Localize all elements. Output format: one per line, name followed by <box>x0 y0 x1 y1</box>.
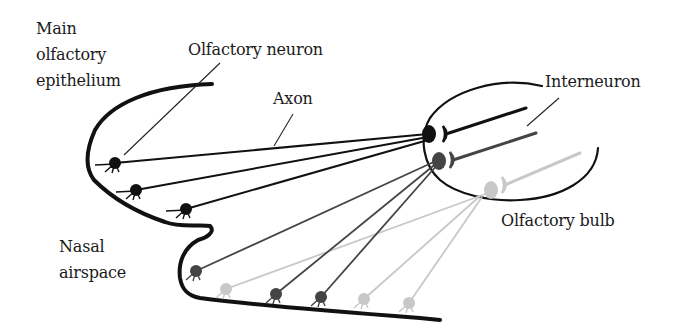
axon-group <box>115 134 488 303</box>
epithelium-outline <box>88 84 440 320</box>
olfactory-neuron <box>354 293 370 309</box>
olfactory-neuron <box>166 203 192 219</box>
label-axon: Axon <box>273 86 313 112</box>
glomerulus <box>484 181 498 199</box>
label-interneuron: Interneuron <box>545 69 641 95</box>
olfactory-neuron <box>266 288 282 304</box>
olfactory-neuron <box>216 283 232 299</box>
olfactory-neuron <box>399 297 415 313</box>
interneuron-leader <box>527 98 559 126</box>
label-olfactory-bulb: Olfactory bulb <box>501 208 615 234</box>
label-olfactory-neuron: Olfactory neuron <box>188 37 323 63</box>
axon <box>196 160 438 271</box>
axon <box>321 164 438 297</box>
glomerulus <box>432 152 446 170</box>
axon-leader <box>274 114 293 146</box>
interneuron <box>450 133 536 168</box>
olfactory-neuron <box>116 184 142 200</box>
olfactory-neuron <box>95 157 121 173</box>
axon <box>226 193 488 289</box>
olfactory-neuron-leader <box>124 63 220 155</box>
interneuron <box>443 108 526 142</box>
interneuron-group <box>443 108 580 193</box>
olfactory-neuron-group <box>95 157 415 313</box>
olfactory-neuron <box>311 291 327 307</box>
axon <box>115 134 428 163</box>
glomerulus-group <box>422 125 498 199</box>
glomerulus <box>422 125 436 143</box>
axon <box>276 162 438 294</box>
olfactory-neuron <box>186 265 202 281</box>
olfactory-system-diagram: Main olfactory epithelium Olfactory neur… <box>0 0 682 332</box>
label-main-olfactory-epithelium: Main olfactory epithelium <box>36 16 121 94</box>
label-nasal-airspace: Nasal airspace <box>59 234 126 286</box>
